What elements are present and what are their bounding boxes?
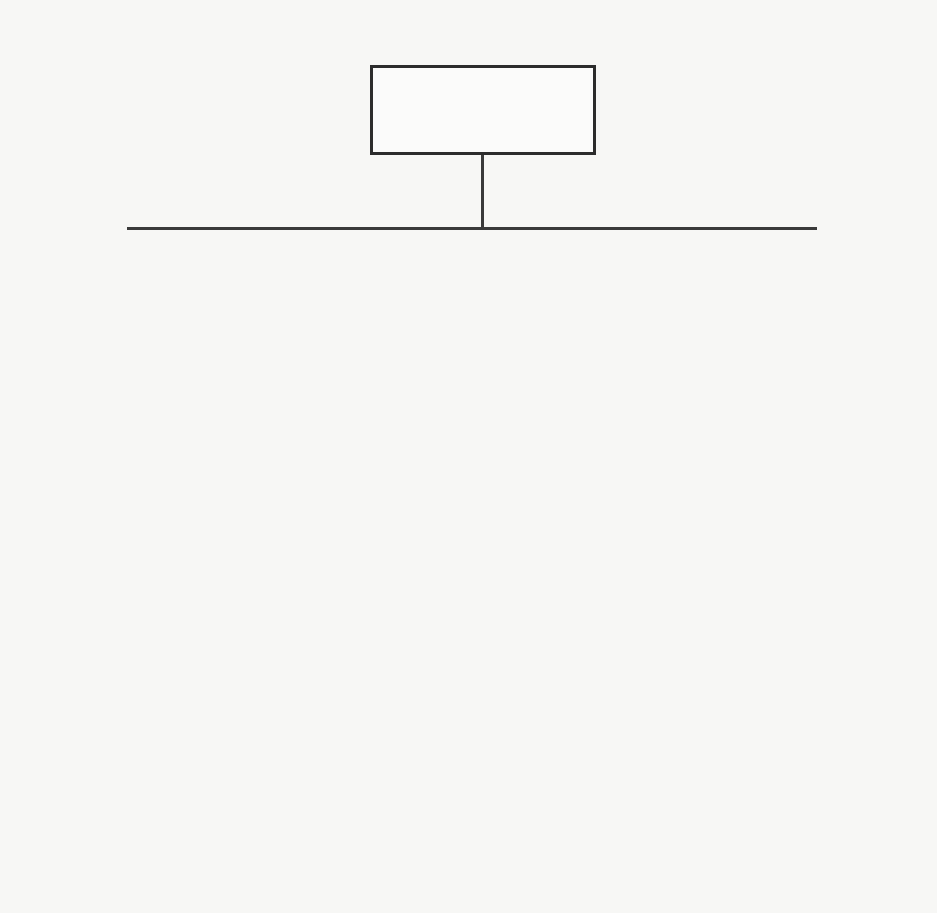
- connector-root-down: [481, 155, 484, 228]
- connector-bus-top: [127, 227, 817, 230]
- node-machine-learning: [370, 65, 596, 155]
